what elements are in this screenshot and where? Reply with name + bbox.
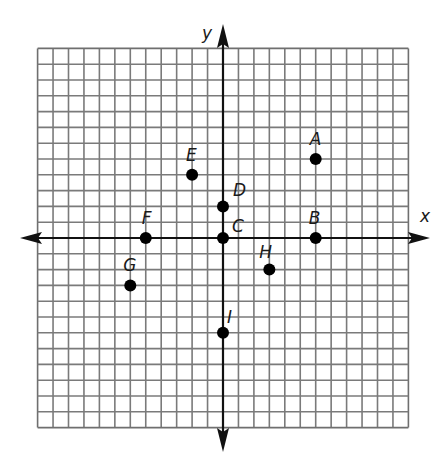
point-label: H (259, 242, 272, 262)
point-label: F (142, 208, 152, 228)
point-c: C (217, 216, 244, 244)
point-dot (217, 200, 229, 212)
point-dot (124, 279, 136, 291)
coordinate-plane: x y ABCDEFGHI (0, 0, 448, 466)
point-label: A (309, 129, 322, 149)
point-label: I (227, 307, 232, 327)
point-dot (140, 232, 152, 244)
point-label: C (232, 216, 244, 236)
point-dot (217, 232, 229, 244)
point-dot (186, 169, 198, 181)
point-d: D (217, 180, 246, 212)
point-b: B (309, 208, 322, 244)
point-a: A (309, 129, 322, 165)
point-label: D (233, 180, 246, 200)
point-dot (310, 232, 322, 244)
point-dot (263, 264, 275, 276)
point-i: I (217, 307, 232, 339)
point-g: G (123, 255, 136, 291)
point-dot (310, 153, 322, 165)
point-h: H (259, 242, 275, 276)
point-label: G (123, 255, 136, 275)
point-label: B (309, 208, 321, 228)
y-axis-label: y (201, 23, 213, 43)
point-e: E (186, 145, 198, 181)
point-f: F (140, 208, 152, 244)
point-dot (217, 327, 229, 339)
x-axis-label: x (419, 206, 431, 226)
point-label: E (186, 145, 197, 165)
